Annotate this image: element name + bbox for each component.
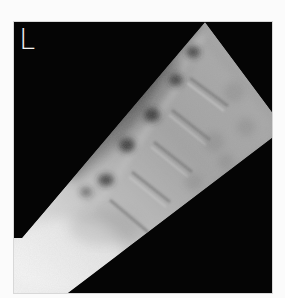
side-marker-label: L bbox=[19, 25, 35, 54]
xray-image: L bbox=[14, 22, 272, 293]
spine-radiograph bbox=[14, 22, 272, 293]
